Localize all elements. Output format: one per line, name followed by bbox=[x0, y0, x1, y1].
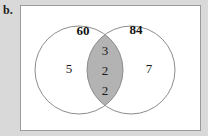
overlap-value-2: 2 bbox=[102, 63, 109, 78]
part-label: b. bbox=[3, 3, 13, 17]
left-circle-value: 5 bbox=[66, 61, 73, 76]
right-circle-outer-label: 84 bbox=[130, 22, 144, 37]
venn-diagram-panel: 60 84 5 7 3 2 2 bbox=[20, 5, 201, 131]
right-circle-value: 7 bbox=[146, 61, 153, 76]
overlap-value-3: 2 bbox=[102, 83, 109, 98]
venn-diagram: 60 84 5 7 3 2 2 bbox=[21, 6, 201, 131]
left-circle-outer-label: 60 bbox=[77, 23, 90, 38]
overlap-value-1: 3 bbox=[102, 43, 109, 58]
figure-root: b. 60 84 5 7 3 bbox=[0, 0, 208, 136]
